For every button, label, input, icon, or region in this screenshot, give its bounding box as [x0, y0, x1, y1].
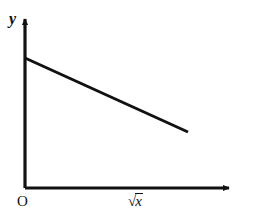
sqrt-group: √x [128, 193, 143, 210]
data-line-y-vs-sqrt-x [25, 58, 188, 132]
y-axis-label: y [9, 11, 16, 27]
x-axis-label: √x [128, 193, 143, 210]
graph-figure: y O √x [0, 0, 276, 217]
origin-label: O [17, 194, 28, 209]
radicand-label: x [135, 193, 143, 210]
data-series-group [25, 58, 188, 132]
plot-canvas [0, 0, 276, 217]
